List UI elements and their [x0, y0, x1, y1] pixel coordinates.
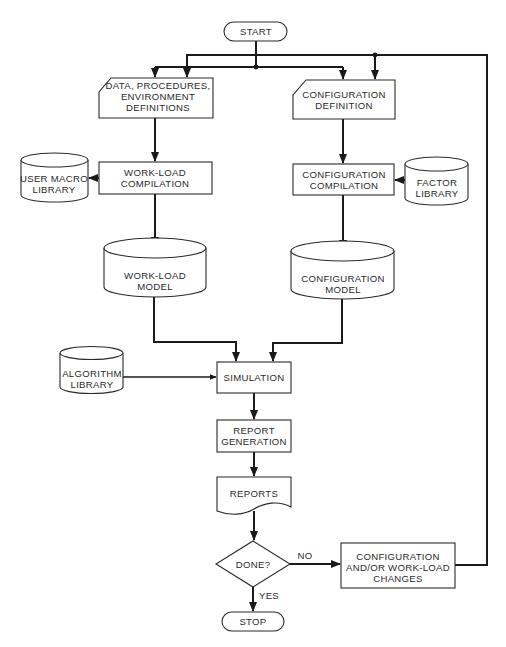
node-label: DATA, PROCEDURES, — [106, 80, 211, 91]
node-label: ENVIRONMENT — [121, 91, 195, 102]
node-label: LIBRARY — [71, 379, 114, 390]
cylinder-top — [291, 241, 394, 261]
node-done-decision: DONE? — [216, 541, 290, 587]
node-factor-library: FACTOR LIBRARY — [405, 157, 468, 205]
node-label: START — [240, 26, 272, 37]
node-label: GENERATION — [221, 436, 287, 447]
edge-label-no: NO — [298, 550, 313, 561]
node-label: LIBRARY — [33, 184, 76, 195]
node-label: WORK-LOAD — [124, 270, 186, 281]
node-label: LIBRARY — [416, 188, 459, 199]
node-label: CONFIGURATION — [302, 169, 386, 180]
node-reports: REPORTS — [217, 477, 291, 514]
node-label: DEFINITIONS — [126, 102, 190, 113]
node-label: AND/OR WORK-LOAD — [346, 562, 450, 573]
node-label: COMPILATION — [121, 178, 190, 189]
node-label: CONFIGURATION — [301, 273, 385, 284]
node-label: FACTOR — [417, 177, 458, 188]
connectors: NO YES — [89, 41, 487, 611]
node-label: STOP — [239, 616, 266, 627]
cylinder-top — [21, 153, 88, 167]
flowchart-diagram: NO YES START DATA, PROCEDURES, ENVIRONME… — [0, 0, 506, 647]
node-label: SIMULATION — [224, 372, 285, 383]
node-label: COMPILATION — [310, 180, 379, 191]
arrow-wl-model-to-simulation — [154, 297, 236, 361]
node-label: USER MACRO — [20, 173, 88, 184]
node-label: REPORTS — [230, 488, 278, 499]
node-label: CONFIGURATION — [302, 89, 386, 100]
node-report-generation: REPORT GENERATION — [217, 420, 291, 452]
node-stop: STOP — [222, 612, 284, 631]
node-configuration-compilation: CONFIGURATION COMPILATION — [293, 164, 394, 195]
node-label: CONFIGURATION — [356, 551, 440, 562]
node-label: ALGORITHM — [62, 368, 122, 379]
arrow-config-model-to-simulation — [273, 299, 342, 361]
node-label: MODEL — [325, 284, 361, 295]
node-workload-compilation: WORK-LOAD COMPILATION — [99, 162, 212, 194]
node-label: REPORT — [233, 425, 275, 436]
node-changes: CONFIGURATION AND/OR WORK-LOAD CHANGES — [341, 543, 455, 588]
node-label: DONE? — [236, 559, 271, 570]
cylinder-top — [60, 347, 123, 360]
node-label: MODEL — [137, 281, 173, 292]
node-data-definitions: DATA, PROCEDURES, ENVIRONMENT DEFINITION… — [99, 78, 213, 118]
node-algorithm-library: ALGORITHM LIBRARY — [60, 347, 123, 394]
node-user-macro-library: USER MACRO LIBRARY — [20, 153, 88, 202]
node-configuration-model: CONFIGURATION MODEL — [291, 241, 394, 299]
node-simulation: SIMULATION — [217, 362, 291, 393]
node-label: DEFINITION — [315, 100, 372, 111]
edge-label-yes: YES — [259, 590, 279, 601]
cylinder-top — [104, 238, 206, 258]
node-label: WORK-LOAD — [124, 167, 186, 178]
node-configuration-definition: CONFIGURATION DEFINITION — [293, 80, 395, 119]
node-label: CHANGES — [373, 573, 423, 584]
junction-dot-start — [254, 65, 259, 70]
node-start: START — [224, 22, 287, 41]
node-workload-model: WORK-LOAD MODEL — [104, 238, 206, 297]
cylinder-top — [405, 157, 468, 171]
